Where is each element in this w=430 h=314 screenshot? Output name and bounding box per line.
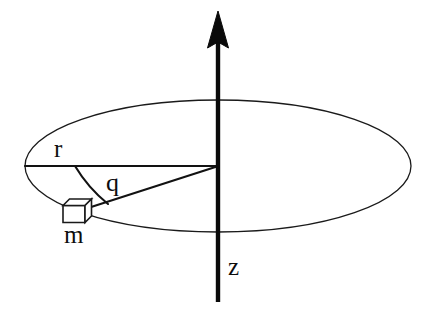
mass-cube — [63, 199, 92, 223]
z-axis-arrowhead — [208, 11, 229, 48]
physics-diagram-figure: r q m z — [0, 0, 430, 314]
mass-cube-front-face — [63, 206, 85, 223]
diagram-canvas — [0, 0, 430, 314]
z-axis-label: z — [228, 254, 239, 279]
angle-label: q — [106, 170, 119, 196]
radius-label: r — [54, 136, 62, 161]
mass-label: m — [64, 222, 83, 247]
